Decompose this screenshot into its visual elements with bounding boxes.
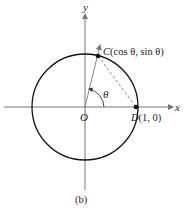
point-c-label: C(cos θ, sin θ) (103, 46, 164, 58)
figure-caption: (b) (75, 194, 88, 206)
x-axis-label: x (174, 101, 180, 113)
angle-arc (89, 89, 104, 107)
point-c (96, 54, 101, 59)
point-d-coords: (1, 0) (139, 112, 162, 124)
origin-label: O (80, 111, 88, 123)
point-d-label: D(1, 0) (130, 112, 162, 124)
point-d (134, 105, 139, 110)
unit-circle-diagram: y x O θ C(cos θ, sin θ) D(1, 0) (b) (0, 0, 184, 211)
point-c-coords: (cos θ, sin θ) (110, 46, 164, 58)
angle-label: θ (103, 88, 109, 100)
y-axis-label: y (82, 1, 88, 13)
